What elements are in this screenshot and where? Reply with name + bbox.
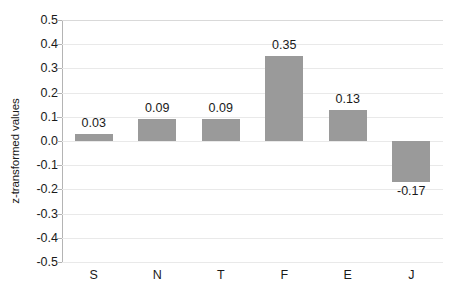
- y-axis-tick-label: 0.0: [41, 134, 58, 148]
- y-axis-tick-label: 0.5: [41, 13, 58, 27]
- bar-value-label: 0.09: [145, 101, 169, 115]
- y-axis-tick-label: 0.4: [41, 37, 58, 51]
- x-axis-category-label: J: [408, 268, 414, 282]
- y-axis-tick-label: -0.4: [36, 231, 58, 245]
- bar: [329, 110, 367, 141]
- y-axis-tick-label: 0.2: [41, 86, 58, 100]
- bar: [392, 141, 430, 182]
- y-axis-tick-label: -0.3: [36, 207, 58, 221]
- y-axis-tick-labels: 0.50.40.30.20.10.0-0.1-0.2-0.3-0.4-0.5: [22, 20, 58, 262]
- x-axis-category-label: E: [344, 268, 352, 282]
- y-axis-tick-label: 0.1: [41, 110, 58, 124]
- x-axis-category-labels: SNTFEJ: [62, 268, 443, 294]
- bar-group: -0.17: [380, 20, 444, 262]
- bar: [75, 134, 113, 141]
- y-axis-tick-label: -0.2: [36, 182, 58, 196]
- x-axis-category-label: T: [217, 268, 225, 282]
- gridline: [62, 262, 443, 263]
- bar-value-label: 0.09: [209, 101, 233, 115]
- bar-group: 0.09: [126, 20, 190, 262]
- bar-group: 0.35: [253, 20, 317, 262]
- x-axis-category-label: S: [90, 268, 98, 282]
- x-axis-category-label: N: [153, 268, 162, 282]
- bar-group: 0.13: [316, 20, 380, 262]
- bar: [138, 119, 176, 141]
- plot-area: 0.030.090.090.350.13-0.17: [62, 20, 443, 262]
- y-axis-tick-label: -0.1: [36, 158, 58, 172]
- bar: [265, 56, 303, 141]
- bar-chart: z-transformed values 0.50.40.30.20.10.0-…: [0, 0, 453, 302]
- bar-value-label: 0.03: [82, 116, 106, 130]
- bar-group: 0.09: [189, 20, 253, 262]
- x-axis-category-label: F: [280, 268, 288, 282]
- bar-value-label: -0.17: [397, 184, 426, 198]
- y-axis-tick-label: 0.3: [41, 61, 58, 75]
- y-axis-tick-label: -0.5: [36, 255, 58, 269]
- bar-value-label: 0.35: [272, 38, 296, 52]
- bar-value-label: 0.13: [336, 92, 360, 106]
- bar: [202, 119, 240, 141]
- bar-group: 0.03: [62, 20, 126, 262]
